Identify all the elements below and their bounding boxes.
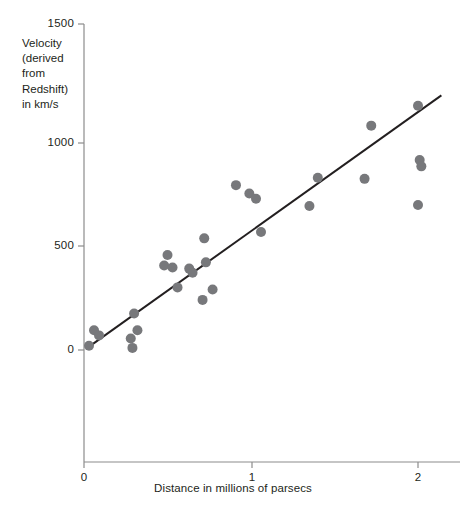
data-point	[251, 194, 261, 204]
data-point	[366, 121, 376, 131]
y-tick-label-0: 0	[18, 343, 74, 355]
y-axis-title-line-4: Redshift)	[22, 82, 98, 97]
data-point	[208, 284, 218, 294]
data-point	[413, 101, 423, 111]
best-fit-line	[87, 95, 441, 348]
data-point	[313, 173, 323, 183]
data-point	[132, 325, 142, 335]
data-point	[416, 161, 426, 171]
data-point	[163, 250, 173, 260]
trend-line	[87, 95, 441, 348]
data-point	[304, 201, 314, 211]
y-axis-title-line-5: in km/s	[22, 97, 98, 112]
y-axis-title-line-1: Velocity	[22, 36, 98, 51]
y-axis-title-line-3: from	[22, 66, 98, 81]
data-points	[84, 101, 426, 353]
data-point	[127, 343, 137, 353]
data-point	[231, 180, 241, 190]
y-axis-title-line-2: (derived	[22, 51, 98, 66]
y-tick-label-500: 500	[18, 239, 74, 251]
data-point	[84, 341, 94, 351]
data-point	[173, 282, 183, 292]
data-point	[256, 227, 266, 237]
data-point	[126, 334, 136, 344]
data-point	[188, 268, 198, 278]
data-point	[168, 263, 178, 273]
data-point	[159, 260, 169, 270]
y-axis-title: Velocity (derived from Redshift) in km/s	[22, 36, 98, 112]
data-point	[94, 330, 104, 340]
data-point	[413, 200, 423, 210]
hubble-diagram-figure: Velocity (derived from Redshift) in km/s…	[0, 0, 466, 515]
data-point	[198, 295, 208, 305]
data-point	[199, 233, 209, 243]
y-tick-label-1000: 1000	[18, 136, 74, 148]
x-axis-ticks	[84, 462, 418, 468]
axis-lines	[84, 24, 460, 462]
data-point	[129, 308, 139, 318]
data-point	[360, 174, 370, 184]
y-tick-label-1500: 1500	[18, 17, 74, 29]
x-axis-title: Distance in millions of parsecs	[0, 482, 466, 494]
data-point	[201, 257, 211, 267]
